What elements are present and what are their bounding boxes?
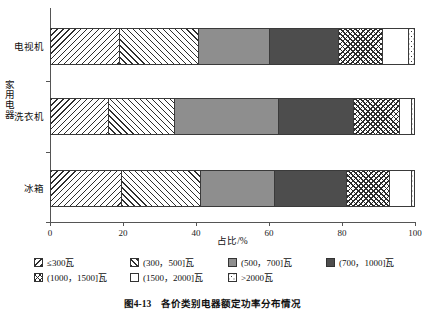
bar-segment xyxy=(199,29,270,64)
y-category-label: 电视机 xyxy=(14,39,44,53)
legend-item[interactable]: >2000瓦 xyxy=(228,271,273,284)
bar-segment xyxy=(383,29,409,64)
bar-segment xyxy=(109,99,175,134)
x-axis-title: 占比/% xyxy=(50,233,415,247)
white-swatch xyxy=(130,273,139,282)
legend-item[interactable]: (500，700]瓦 xyxy=(228,256,326,269)
legend-row-2: (1000，1500]瓦(1500，2000]瓦>2000瓦 xyxy=(34,270,419,285)
figure-caption: 图4-13 各价类别电器额定功率分布情况 xyxy=(0,296,425,310)
legend-label: (1500，2000]瓦 xyxy=(143,271,203,284)
legend-item[interactable]: (1500，2000]瓦 xyxy=(130,271,228,284)
bar-segment xyxy=(412,99,415,134)
x-tick-mark xyxy=(415,222,416,226)
solid-gray-swatch xyxy=(228,258,237,267)
bar-segment xyxy=(279,99,354,134)
bar-segment xyxy=(120,29,198,64)
bar-segment xyxy=(270,29,339,64)
speckle-swatch xyxy=(228,273,237,282)
x-tick-mark xyxy=(269,222,270,226)
bar-segment xyxy=(412,171,415,206)
y-tick-mark xyxy=(46,152,50,153)
bar-segment xyxy=(175,99,279,134)
bar-segment xyxy=(201,171,276,206)
x-tick-mark xyxy=(342,222,343,226)
bar-segment xyxy=(51,99,109,134)
legend-item[interactable]: (700，1000]瓦 xyxy=(326,256,395,269)
x-tick-mark xyxy=(196,222,197,226)
legend-label: >2000瓦 xyxy=(241,271,273,284)
bar-冰箱 xyxy=(50,170,415,207)
diagonal-backslash-swatch xyxy=(34,258,43,267)
bar-segment xyxy=(275,171,346,206)
bar-segment xyxy=(400,99,412,134)
solid-dark-gray-swatch xyxy=(326,258,335,267)
bar-segment xyxy=(390,171,412,206)
legend-item[interactable]: ≤300瓦 xyxy=(34,256,130,269)
x-tick-mark xyxy=(123,222,124,226)
cross-hatch-swatch xyxy=(34,273,43,282)
bar-segment xyxy=(122,171,200,206)
bar-洗衣机 xyxy=(50,98,415,135)
bar-segment xyxy=(354,99,400,134)
legend-label: ≤300瓦 xyxy=(47,256,74,269)
legend-row-1: ≤300瓦(300，500]瓦(500，700]瓦(700，1000]瓦 xyxy=(34,255,419,270)
diagonal-slash-swatch xyxy=(130,258,139,267)
y-tick-mark xyxy=(46,81,50,82)
y-category-label: 冰箱 xyxy=(24,181,44,195)
bar-segment xyxy=(51,171,122,206)
x-axis-line xyxy=(50,222,415,223)
legend-label: (500，700]瓦 xyxy=(241,256,292,269)
plot-area: 020406080100 电视机洗衣机冰箱 xyxy=(50,8,415,223)
legend-label: (700，1000]瓦 xyxy=(339,256,395,269)
bar-segment xyxy=(339,29,383,64)
legend-item[interactable]: (300，500]瓦 xyxy=(130,256,228,269)
bar-segment xyxy=(409,29,415,64)
bar-电视机 xyxy=(50,28,415,65)
legend-label: (300，500]瓦 xyxy=(143,256,194,269)
x-tick-mark xyxy=(50,222,51,226)
y-category-label: 洗衣机 xyxy=(14,109,44,123)
y-tick-mark xyxy=(46,222,50,223)
chart-legend: ≤300瓦(300，500]瓦(500，700]瓦(700，1000]瓦 (10… xyxy=(34,255,419,285)
legend-item[interactable]: (1000，1500]瓦 xyxy=(34,271,130,284)
bar-segment xyxy=(51,29,120,64)
bar-segment xyxy=(347,171,391,206)
legend-label: (1000，1500]瓦 xyxy=(47,271,107,284)
